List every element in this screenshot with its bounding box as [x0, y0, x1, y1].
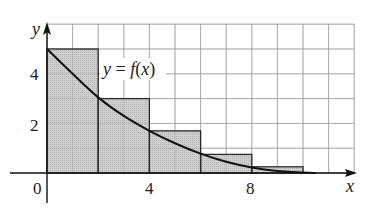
y-tick-label-2: 2	[30, 116, 39, 135]
x-tick-label-4: 4	[145, 179, 154, 198]
curve-label: y = f(x)	[101, 59, 155, 80]
x-axis-label: x	[345, 176, 354, 196]
curve-label-y: y	[101, 59, 111, 79]
curve-label-x: x	[140, 59, 149, 79]
riemann-sum-chart: y x 0 4 8 2 4 y = f(x)	[0, 0, 367, 209]
origin-label: 0	[33, 179, 42, 198]
y-tick-label-4: 4	[30, 65, 39, 84]
y-axis-label: y	[30, 19, 40, 39]
x-tick-label-8: 8	[246, 179, 255, 198]
curve-label-equals: =	[111, 59, 130, 79]
curve-label-close-paren: )	[149, 59, 155, 80]
